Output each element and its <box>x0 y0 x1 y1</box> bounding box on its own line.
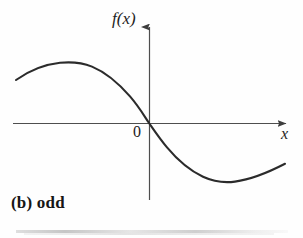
y-axis-label: f(x) <box>112 10 136 27</box>
function-curve <box>16 62 285 182</box>
figure-odd-function: f(x) x 0 (b) odd <box>0 0 303 238</box>
scan-artifact-line-secondary <box>24 233 274 235</box>
figure-caption: (b) odd <box>11 193 65 213</box>
x-axis-label: x <box>281 126 288 142</box>
origin-label: 0 <box>133 124 141 140</box>
